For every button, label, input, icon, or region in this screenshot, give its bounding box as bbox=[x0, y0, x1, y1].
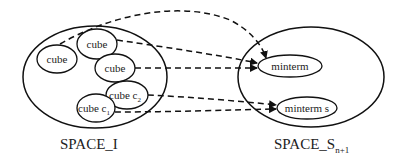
svg-text:cube: cube bbox=[105, 62, 126, 74]
svg-text:minterm s: minterm s bbox=[285, 102, 329, 114]
space-s-label: SPACE_Sn+1 bbox=[274, 136, 349, 155]
diagram-canvas: cube cube cube cube c2 cube c1 minterm m… bbox=[0, 0, 401, 162]
svg-text:cube: cube bbox=[87, 38, 108, 50]
arrow-cubec1-to-minterm-s bbox=[115, 109, 276, 112]
cube-node-3: cube bbox=[95, 54, 135, 82]
minterm-node: minterm bbox=[258, 55, 322, 77]
minterm-s-node: minterm s bbox=[277, 97, 337, 119]
svg-text:cube: cube bbox=[47, 53, 68, 65]
space-i-label: SPACE_I bbox=[60, 136, 118, 153]
svg-text:minterm: minterm bbox=[271, 60, 309, 72]
cube-node-1: cube bbox=[37, 45, 77, 73]
arrow-cubec2-to-minterm-s bbox=[148, 95, 276, 105]
arrow-cube2-to-minterm bbox=[117, 40, 257, 63]
cube-c1-node: cube c1 bbox=[77, 94, 115, 122]
